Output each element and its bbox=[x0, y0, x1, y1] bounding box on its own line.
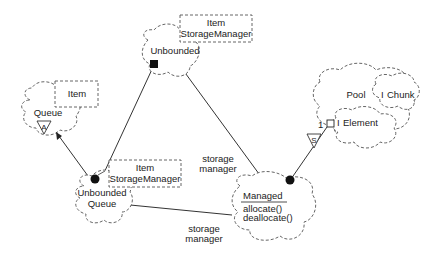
unbounded-class-name: Unbounded bbox=[150, 45, 199, 56]
class-diagram: Item Queue A Item StorageManager Unbound… bbox=[0, 0, 439, 260]
has-filled-square-icon bbox=[150, 60, 158, 68]
managed-class-name: Managed bbox=[243, 190, 283, 201]
managed-operation-2: deallocate() bbox=[243, 212, 293, 223]
association-label-2-line2: manager bbox=[185, 233, 223, 244]
unbounded-queue-to-managed-line bbox=[120, 204, 232, 215]
unbounded-queue-name-line2: Queue bbox=[88, 198, 117, 209]
unbounded-queue-template-param-2: StorageManager bbox=[110, 173, 181, 184]
pool-class-name: Pool bbox=[346, 89, 365, 100]
managed-class[interactable]: Managed allocate() deallocate() bbox=[232, 172, 316, 241]
has-filled-circle-icon bbox=[286, 176, 295, 185]
unbounded-queue-name-line1: Unbounded bbox=[77, 187, 126, 198]
chunk-prefix: I bbox=[381, 89, 384, 100]
chunk-class-name: Chunk bbox=[387, 89, 415, 100]
abstract-adornment-label: A bbox=[41, 123, 47, 132]
cardinality-label: 1 bbox=[318, 119, 323, 130]
queue-template-param: Item bbox=[68, 88, 87, 99]
unbounded-queue-template-param-1: Item bbox=[136, 162, 155, 173]
has-filled-circle-icon bbox=[91, 175, 100, 184]
unbounded-template-param-1: Item bbox=[207, 17, 226, 28]
element-prefix: I bbox=[337, 117, 340, 128]
unbounded-queue-to-unbounded-line bbox=[103, 65, 154, 175]
unbounded-template-param-2: StorageManager bbox=[181, 28, 252, 39]
pool-class[interactable]: Pool I Chunk I Element 1 bbox=[313, 63, 419, 148]
has-open-square-icon bbox=[327, 120, 334, 127]
association-label-1-line2: manager bbox=[199, 163, 237, 174]
element-class-name: Element bbox=[343, 117, 378, 128]
unbounded-class[interactable]: Item StorageManager Unbounded bbox=[142, 15, 252, 76]
unbounded-queue-to-queue-line bbox=[56, 132, 88, 176]
unbounded-queue-class[interactable]: Item StorageManager Unbounded Queue bbox=[76, 160, 181, 223]
queue-class-name: Queue bbox=[34, 107, 63, 118]
queue-class[interactable]: Item Queue A bbox=[22, 81, 98, 135]
static-adornment-label: S bbox=[311, 136, 316, 145]
